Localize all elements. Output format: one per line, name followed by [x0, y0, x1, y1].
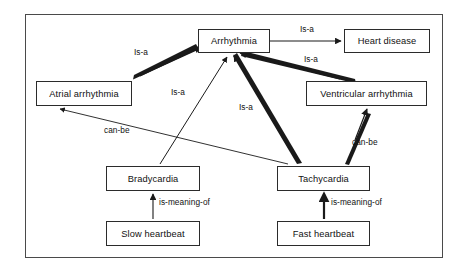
node-label: Bradycardia	[128, 174, 179, 184]
node-tachycardia[interactable]: Tachycardia	[277, 166, 370, 191]
edge-label-tachycardia-arrhythmia: Is-a	[239, 102, 253, 112]
edge-label-tachycardia-ventricular: can-be	[352, 137, 378, 147]
edge-label-ventricular-arrhythmia: Is-a	[304, 54, 318, 64]
diagram-canvas: Arrhythmia Heart disease Atrial arrhythm…	[0, 0, 465, 268]
edge-label-fast-heartbeat: is-meaning-of	[331, 197, 382, 207]
node-slow-heartbeat[interactable]: Slow heartbeat	[106, 221, 200, 246]
node-label: Ventricular arrhythmia	[320, 89, 413, 99]
node-atrial-arrhythmia[interactable]: Atrial arrhythmia	[36, 81, 132, 106]
node-label: Heart disease	[358, 36, 417, 46]
node-bradycardia[interactable]: Bradycardia	[106, 166, 200, 191]
node-label: Arrhythmia	[211, 36, 257, 46]
node-ventricular-arrhythmia[interactable]: Ventricular arrhythmia	[306, 81, 427, 106]
node-label: Tachycardia	[298, 174, 349, 184]
edge-label-tachycardia-atrial: can-be	[104, 125, 130, 135]
node-fast-heartbeat[interactable]: Fast heartbeat	[277, 221, 370, 246]
edge-label-slow-heartbeat: is-meaning-of	[159, 197, 210, 207]
node-heart-disease[interactable]: Heart disease	[344, 29, 430, 53]
edge-label-arrhythmia-heart-disease: Is-a	[300, 24, 314, 34]
edge-label-bradycardia-arrhythmia: Is-a	[171, 87, 185, 97]
node-label: Fast heartbeat	[293, 229, 354, 239]
node-arrhythmia[interactable]: Arrhythmia	[198, 29, 270, 53]
node-label: Atrial arrhythmia	[49, 89, 118, 99]
edge-label-atrial-arrhythmia: Is-a	[134, 47, 148, 57]
node-label: Slow heartbeat	[121, 229, 184, 239]
